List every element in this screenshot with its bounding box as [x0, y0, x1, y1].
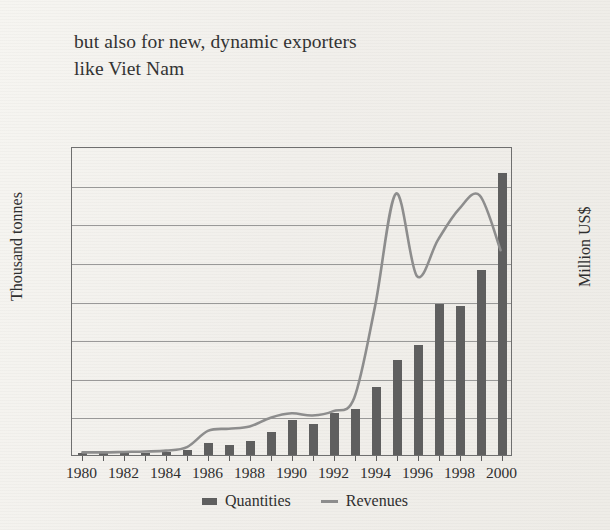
x-axis-ticks: [71, 456, 512, 462]
x-tick: [229, 456, 230, 461]
y-tick-right: [511, 369, 512, 370]
x-tick: [82, 456, 83, 461]
x-tick-label: 1988: [234, 464, 265, 482]
y-tick-left: [71, 341, 72, 342]
x-tick: [166, 456, 167, 461]
x-tick: [187, 456, 188, 461]
x-tick: [292, 456, 293, 461]
legend-item-quantities: Quantities: [202, 492, 291, 510]
x-tick-label: 1984: [150, 464, 181, 482]
x-tick: [271, 456, 272, 461]
y-tick-right: [511, 325, 512, 326]
x-tick: [418, 456, 419, 461]
x-tick-label: 1986: [192, 464, 223, 482]
x-tick-label: 1994: [360, 464, 391, 482]
x-tick: [334, 456, 335, 461]
x-tick: [355, 456, 356, 461]
y-tick-left: [71, 225, 72, 226]
legend-line-swatch-icon: [321, 500, 338, 503]
y-axis-title-right: Million US$: [576, 207, 594, 287]
y-tick-left: [71, 148, 72, 149]
x-tick-label: 1982: [108, 464, 139, 482]
y-tick-right: [511, 192, 512, 193]
y-tick-right: [511, 236, 512, 237]
x-tick: [145, 456, 146, 461]
legend-item-revenues: Revenues: [321, 492, 408, 510]
line-series-revenues: [72, 148, 511, 455]
chart-container: Thousand tonnes Million US$ 010020030040…: [0, 120, 610, 530]
x-tick: [103, 456, 104, 461]
x-tick-label: 1998: [444, 464, 475, 482]
y-tick-left: [71, 418, 72, 419]
x-tick: [313, 456, 314, 461]
chart-legend: Quantities Revenues: [0, 492, 610, 510]
x-tick: [250, 456, 251, 461]
revenue-line-path: [82, 193, 500, 452]
figure-caption: but also for new, dynamic exporters like…: [74, 28, 514, 82]
caption-line-2: like Viet Nam: [74, 55, 514, 82]
legend-label-revenues: Revenues: [346, 492, 408, 510]
y-tick-right: [511, 413, 512, 414]
y-tick-right: [511, 280, 512, 281]
x-tick: [208, 456, 209, 461]
y-tick-right: [511, 148, 512, 149]
x-tick-label: 1996: [402, 464, 433, 482]
y-tick-left: [71, 264, 72, 265]
y-tick-left: [71, 187, 72, 188]
y-tick-left: [71, 380, 72, 381]
x-tick: [502, 456, 503, 461]
x-axis-labels: 1980198219841986198819901992199419961998…: [71, 464, 512, 486]
x-tick: [439, 456, 440, 461]
y-axis-title-left: Thousand tonnes: [8, 192, 26, 301]
x-tick: [124, 456, 125, 461]
x-tick-label: 1992: [318, 464, 349, 482]
legend-bar-swatch-icon: [202, 498, 217, 505]
figure-page: but also for new, dynamic exporters like…: [0, 0, 610, 530]
x-tick: [460, 456, 461, 461]
x-tick: [397, 456, 398, 461]
legend-label-quantities: Quantities: [225, 492, 291, 510]
x-tick: [376, 456, 377, 461]
x-tick-label: 1990: [276, 464, 307, 482]
x-tick: [481, 456, 482, 461]
y-tick-left: [71, 303, 72, 304]
x-tick-label: 2000: [486, 464, 517, 482]
plot-area: 0100200300400500600700800 01002003004005…: [71, 147, 512, 456]
x-tick-label: 1980: [66, 464, 97, 482]
caption-line-1: but also for new, dynamic exporters: [74, 28, 514, 55]
